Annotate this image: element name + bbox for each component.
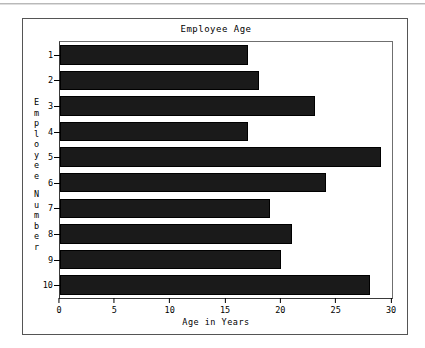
- y-tick-label: 8: [48, 229, 53, 239]
- x-tick-label: 15: [220, 305, 230, 315]
- bar: [60, 96, 315, 115]
- bar: [60, 199, 270, 218]
- y-tick-label: 5: [48, 152, 53, 162]
- bar: [60, 147, 381, 166]
- bar: [60, 250, 281, 269]
- x-tick-label: 30: [386, 305, 396, 315]
- bar: [60, 122, 248, 141]
- x-tick-label: 25: [331, 305, 341, 315]
- bar-row: 1: [60, 42, 392, 68]
- y-axis-label-char: b: [31, 221, 42, 232]
- top-divider-shadow: [0, 4, 425, 5]
- x-tick: 5: [112, 298, 117, 315]
- y-axis-label-char: y: [31, 150, 42, 161]
- y-axis-label-char: e: [31, 160, 42, 171]
- y-axis-label-char: e: [31, 231, 42, 242]
- x-tick: 20: [275, 298, 285, 315]
- bar-row: 6: [60, 170, 392, 196]
- x-tick: 0: [56, 298, 61, 315]
- x-tick-label: 10: [165, 305, 175, 315]
- x-tick-mark: [335, 298, 336, 303]
- x-tick-mark: [169, 298, 170, 303]
- y-tick-label: 4: [48, 127, 53, 137]
- bar: [60, 71, 259, 90]
- bar-row: 7: [60, 196, 392, 222]
- x-tick: 30: [386, 298, 396, 315]
- bar: [60, 275, 370, 294]
- y-axis-label-char: p: [31, 118, 42, 129]
- x-tick-mark: [225, 298, 226, 303]
- bar-row: 5: [60, 144, 392, 170]
- plot-area: 12345678910: [59, 41, 393, 299]
- x-tick-mark: [59, 298, 60, 303]
- bar: [60, 173, 326, 192]
- y-axis-label-char: o: [31, 139, 42, 150]
- x-tick-label: 20: [275, 305, 285, 315]
- y-axis-label-char: E: [31, 97, 42, 108]
- x-tick: 10: [165, 298, 175, 315]
- x-tick-label: 0: [56, 305, 61, 315]
- bar-row: 10: [60, 272, 392, 298]
- x-tick: 25: [331, 298, 341, 315]
- x-tick: 15: [220, 298, 230, 315]
- chart-figure: Employee Age EmployeeNumber 12345678910 …: [22, 18, 408, 335]
- y-axis-label-char: m: [31, 210, 42, 221]
- y-axis-label: EmployeeNumber: [31, 97, 42, 252]
- bar-row: 4: [60, 119, 392, 145]
- y-tick-label: 10: [43, 280, 53, 290]
- y-axis-label-char: u: [31, 200, 42, 211]
- y-axis-label-char: m: [31, 108, 42, 119]
- y-tick-label: 7: [48, 203, 53, 213]
- x-tick-label: 5: [112, 305, 117, 315]
- bar-series: 12345678910: [60, 42, 392, 298]
- bar: [60, 45, 248, 64]
- y-axis-label-char: N: [31, 189, 42, 200]
- y-tick-label: 1: [48, 50, 53, 60]
- x-tick-mark: [391, 298, 392, 303]
- x-axis-label: Age in Years: [23, 317, 409, 327]
- x-tick-mark: [114, 298, 115, 303]
- y-tick-label: 2: [48, 75, 53, 85]
- y-axis-label-char: e: [31, 171, 42, 182]
- y-tick-label: 6: [48, 178, 53, 188]
- y-axis-label-gap: [31, 181, 42, 189]
- y-axis-label-char: r: [31, 242, 42, 253]
- x-tick-mark: [280, 298, 281, 303]
- y-tick-label: 9: [48, 255, 53, 265]
- bar-row: 9: [60, 247, 392, 273]
- bar-row: 2: [60, 68, 392, 94]
- bar-row: 3: [60, 93, 392, 119]
- y-axis-label-char: l: [31, 129, 42, 140]
- bar-row: 8: [60, 221, 392, 247]
- chart-title: Employee Age: [23, 24, 409, 34]
- bar: [60, 224, 292, 243]
- y-tick-label: 3: [48, 101, 53, 111]
